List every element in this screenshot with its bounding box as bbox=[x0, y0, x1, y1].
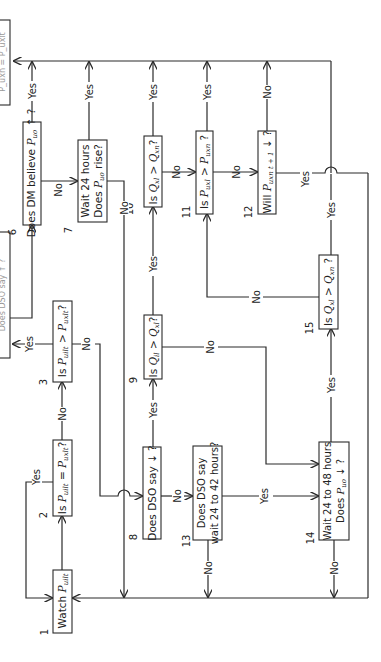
svg-text:No: No bbox=[119, 201, 130, 215]
flowchart-diagram: P_uxn = P_uxlt Does DSO say ↑ ? Does DM … bbox=[0, 0, 381, 662]
svg-text:Wait 24 hours: Wait 24 hours bbox=[79, 145, 91, 218]
edge-12-yes bbox=[276, 167, 368, 173]
svg-text:15: 15 bbox=[304, 322, 315, 335]
node-14-wait-24-48: Wait 24 to 48 hours Does Puo ↓ ? 14 bbox=[305, 442, 349, 545]
svg-text:Does DSO say ↑ ?: Does DSO say ↑ ? bbox=[0, 259, 7, 332]
svg-text:8: 8 bbox=[128, 534, 139, 540]
svg-text:No: No bbox=[53, 183, 64, 197]
partial-box-4: Does DSO say ↑ ? bbox=[0, 232, 10, 358]
svg-text:Yes: Yes bbox=[24, 336, 35, 353]
edge-15-no bbox=[207, 214, 319, 297]
node-2-puilt-eq-puxlt: Is Puilt = Puxlt? 2 bbox=[38, 440, 72, 518]
svg-text:Yes: Yes bbox=[84, 84, 95, 101]
svg-text:No: No bbox=[329, 561, 340, 575]
svg-text:wait 24 to 42 hours?: wait 24 to 42 hours? bbox=[209, 442, 220, 545]
svg-text:1: 1 bbox=[39, 629, 50, 635]
svg-text:No: No bbox=[171, 165, 182, 179]
svg-text:6: 6 bbox=[7, 229, 18, 235]
svg-text:No: No bbox=[57, 407, 68, 421]
node-13-dso-say-wait: Does DSO say wait 24 to 42 hours? 13 bbox=[181, 442, 222, 548]
svg-text:P_uxn = P_uxlt: P_uxn = P_uxlt bbox=[0, 32, 7, 91]
svg-text:9: 9 bbox=[128, 377, 139, 383]
svg-text:No: No bbox=[172, 489, 183, 503]
svg-text:13: 13 bbox=[181, 535, 192, 548]
svg-text:Yes: Yes bbox=[202, 84, 213, 101]
node-7-wait-24: Wait 24 hours Does Puo rise? 7 bbox=[63, 140, 107, 233]
node-1-watch: Watch Puilt 1 bbox=[39, 570, 72, 635]
node-8-dso-say-down: Does DSO say ↓ ? 8 bbox=[128, 445, 161, 540]
svg-text:No: No bbox=[81, 337, 92, 351]
edge-3-no bbox=[72, 344, 142, 496]
svg-text:12: 12 bbox=[243, 206, 254, 219]
svg-text:7: 7 bbox=[63, 227, 74, 233]
svg-text:Does DSO say: Does DSO say bbox=[196, 458, 207, 529]
svg-text:Yes: Yes bbox=[300, 171, 311, 188]
edge-7-no bbox=[106, 181, 124, 597]
edge-4-to-6 bbox=[10, 225, 32, 318]
svg-text:Yes: Yes bbox=[148, 402, 159, 419]
node-15-qxl-gt-qxn: Is Qxl > Qxn ? 15 bbox=[304, 255, 338, 334]
svg-text:Does Puo rise?: Does Puo rise? bbox=[92, 144, 106, 218]
svg-text:No: No bbox=[203, 561, 214, 575]
svg-text:No: No bbox=[231, 165, 242, 179]
svg-text:Wait 24 to 48 hours: Wait 24 to 48 hours bbox=[322, 442, 333, 540]
svg-text:No: No bbox=[262, 85, 273, 99]
node-3-puilt-gt-puxlt: Is Puilt > Puxlt? 3 bbox=[38, 301, 72, 385]
node-9-qil-gt-qxl: Is Qil > Qxl? 9 bbox=[128, 315, 162, 383]
svg-text:No: No bbox=[205, 340, 216, 354]
svg-text:14: 14 bbox=[305, 532, 316, 545]
node-11-puxl-gt-puxn: Is Puxl > Puxn ? 11 bbox=[181, 131, 213, 218]
edge-9-no bbox=[162, 347, 318, 464]
svg-text:2: 2 bbox=[38, 512, 49, 518]
svg-text:Yes: Yes bbox=[326, 202, 337, 219]
svg-text:No: No bbox=[251, 290, 262, 304]
svg-text:3: 3 bbox=[38, 379, 49, 385]
partial-box-5: P_uxn = P_uxlt bbox=[0, 20, 10, 105]
svg-text:11: 11 bbox=[181, 206, 192, 219]
svg-text:Yes: Yes bbox=[326, 377, 337, 394]
svg-text:Yes: Yes bbox=[31, 469, 42, 486]
node-6-dm-believe: Does DM believe Puo ↑ ? 6 bbox=[7, 109, 41, 238]
svg-text:Does DSO say ↓ ?: Does DSO say ↓ ? bbox=[146, 445, 158, 540]
svg-text:Yes: Yes bbox=[27, 83, 38, 100]
edge-2-yes bbox=[26, 482, 53, 598]
svg-text:Yes: Yes bbox=[259, 488, 270, 505]
svg-text:Does DM believe Puo ↑ ?: Does DM believe Puo ↑ ? bbox=[25, 109, 39, 238]
svg-text:Yes: Yes bbox=[148, 256, 159, 273]
svg-text:Yes: Yes bbox=[148, 84, 159, 101]
node-12-will-puxn-fall: Will Puxn t + 1 ↓ ? 12 bbox=[243, 130, 276, 218]
